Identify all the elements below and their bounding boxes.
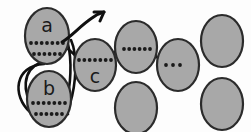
ellipse-g — [115, 82, 157, 132]
dot-mark — [53, 52, 57, 56]
dot-mark — [32, 52, 36, 56]
dot-mark — [98, 58, 102, 62]
ellipse-d — [115, 21, 157, 73]
dot-mark — [88, 58, 92, 62]
dot-mark — [50, 112, 54, 116]
dot-mark — [133, 47, 137, 51]
node-g — [115, 82, 157, 132]
node-label-c: c — [90, 65, 100, 87]
dot-mark — [104, 58, 108, 62]
dot-mark — [34, 112, 38, 116]
diagram-canvas: abc — [0, 0, 251, 132]
dot-mark — [40, 41, 44, 45]
dot-mark — [55, 112, 59, 116]
dot-mark — [43, 52, 47, 56]
dot-mark — [37, 52, 41, 56]
node-e — [157, 39, 199, 91]
dot-mark — [171, 63, 175, 67]
dot-mark — [63, 101, 67, 105]
dot-mark — [39, 112, 43, 116]
dot-mark — [34, 41, 38, 45]
dot-mark — [82, 58, 86, 62]
figure-container: abc — [0, 0, 251, 132]
dot-mark — [93, 58, 97, 62]
dot-mark — [122, 47, 126, 51]
dot-mark — [31, 101, 35, 105]
node-c: c — [74, 39, 116, 91]
node-h — [201, 78, 243, 130]
ellipse-e — [157, 39, 199, 91]
node-label-a: a — [41, 14, 53, 36]
dot-mark — [148, 47, 152, 51]
dot-mark — [47, 101, 51, 105]
dot-mark — [52, 101, 56, 105]
dot-mark — [58, 52, 62, 56]
dot-mark — [48, 52, 52, 56]
dot-mark — [143, 47, 147, 51]
dot-row-e-0 — [164, 63, 182, 67]
dot-mark — [109, 58, 113, 62]
node-d — [115, 21, 157, 73]
dot-mark — [45, 41, 49, 45]
dot-mark — [29, 41, 33, 45]
dot-mark — [50, 41, 54, 45]
dot-mark — [77, 58, 81, 62]
dot-mark — [164, 63, 168, 67]
dot-mark — [45, 112, 49, 116]
dot-mark — [42, 101, 46, 105]
node-label-b: b — [43, 77, 55, 99]
ellipse-h — [201, 78, 243, 130]
node-f — [201, 15, 243, 67]
dot-mark — [178, 63, 182, 67]
node-b: b — [27, 71, 71, 127]
dot-mark — [36, 101, 40, 105]
node-a: a — [25, 8, 69, 64]
dot-mark — [138, 47, 142, 51]
dot-mark — [56, 41, 60, 45]
dot-mark — [60, 112, 64, 116]
dot-mark — [58, 101, 62, 105]
dot-mark — [127, 47, 131, 51]
ellipse-f — [201, 15, 243, 67]
